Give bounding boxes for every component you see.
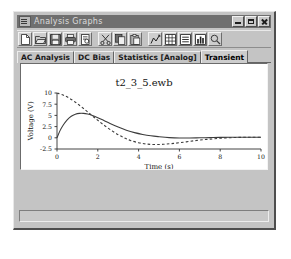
x-tick-label: 8 — [218, 153, 222, 160]
print-preview-icon — [80, 34, 91, 45]
y-axis-label: Voltage (V) — [27, 101, 35, 141]
x-tick-label: 6 — [177, 153, 181, 160]
toolbar — [17, 30, 271, 48]
analysis-tab-bar: AC Analysis DC Bias Statistics [Analog] … — [17, 50, 271, 63]
print-button[interactable] — [63, 32, 77, 46]
toggle-legend-button[interactable] — [178, 32, 192, 46]
cursors-icon — [195, 34, 206, 45]
graph-properties-icon — [150, 34, 161, 45]
toggle-grid-button[interactable] — [163, 32, 177, 46]
graph-properties-button[interactable] — [148, 32, 162, 46]
window-title: Analysis Graphs — [34, 17, 103, 26]
y-tick-label: 5 — [48, 112, 52, 119]
printer-icon — [65, 34, 76, 45]
y-tick-label: 0 — [48, 134, 52, 141]
open-file-button[interactable] — [33, 32, 47, 46]
tab-statistics-analog[interactable]: Statistics [Analog] — [114, 51, 201, 63]
y-tick-label: 7.5 — [42, 101, 52, 108]
tab-dc-bias[interactable]: DC Bias — [74, 51, 114, 63]
graph-window-icon — [19, 16, 31, 27]
save-file-button[interactable] — [48, 32, 62, 46]
paste-button[interactable] — [128, 32, 142, 46]
window-controls — [232, 16, 271, 27]
close-button[interactable] — [258, 16, 270, 27]
zoom-button[interactable] — [208, 32, 222, 46]
tab-ac-analysis[interactable]: AC Analysis — [17, 51, 74, 63]
x-tick-label: 2 — [96, 153, 100, 160]
analysis-graphs-window: Analysis Graphs — [13, 11, 276, 230]
x-axis-label: Time (s) — [145, 163, 174, 170]
maximize-button[interactable] — [245, 16, 257, 27]
x-tick-label: 4 — [137, 153, 141, 160]
tab-transient[interactable]: Transient — [201, 50, 248, 63]
x-tick-label: 0 — [55, 153, 59, 160]
status-bar — [19, 210, 269, 222]
minimize-button[interactable] — [232, 16, 244, 27]
paste-icon — [130, 34, 141, 45]
y-tick-label: 2.5 — [42, 123, 52, 130]
legend-icon — [180, 34, 191, 45]
y-tick-label: 10 — [44, 89, 52, 96]
chart-title: t2_3_5.ewb — [21, 77, 267, 88]
open-folder-icon — [35, 34, 46, 45]
cut-button[interactable] — [98, 32, 112, 46]
graph-panel: t2_3_5.ewb -2.502.557.5100246810Time (s)… — [20, 63, 268, 170]
grid-icon — [165, 34, 176, 45]
new-document-icon — [20, 34, 31, 45]
x-tick-label: 10 — [257, 153, 265, 160]
toggle-cursors-button[interactable] — [193, 32, 207, 46]
copy-icon — [115, 34, 126, 45]
print-preview-button[interactable] — [78, 32, 92, 46]
title-bar[interactable]: Analysis Graphs — [17, 15, 271, 28]
scissors-icon — [100, 34, 111, 45]
magnifier-icon — [210, 34, 221, 45]
y-tick-label: -2.5 — [40, 145, 52, 152]
new-file-button[interactable] — [18, 32, 32, 46]
floppy-disk-icon — [50, 34, 61, 45]
series-solid-trace — [57, 113, 261, 138]
copy-button[interactable] — [113, 32, 127, 46]
